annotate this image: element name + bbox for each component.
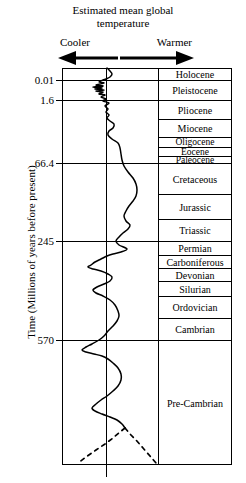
chart-figure: Estimated mean global temperature Cooler…	[0, 0, 246, 483]
temperature-curve-inferred-left	[78, 428, 125, 463]
temperature-curve-layer	[0, 0, 246, 483]
temperature-curve-inferred-right	[125, 428, 156, 463]
temperature-curve	[82, 68, 137, 428]
